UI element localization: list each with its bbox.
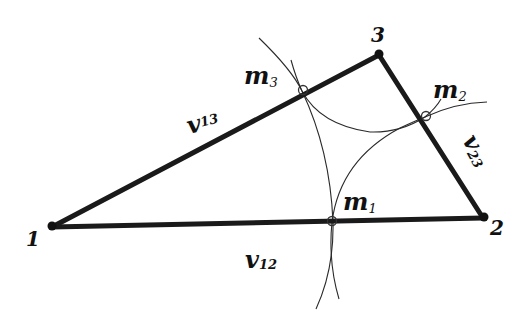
m1-sub: 1 [368, 201, 376, 216]
v23-label: v23 [457, 129, 498, 171]
edge-v13 [52, 55, 379, 227]
m3-main: m [244, 61, 269, 90]
m3-sub: 3 [269, 75, 277, 90]
vertex-2-label: 2 [489, 216, 504, 240]
m2-label: m2 [433, 75, 467, 104]
m2-main: m [433, 75, 458, 104]
vertex-3-label: 3 [371, 23, 385, 47]
v13-label: v13 [183, 104, 221, 140]
m2-sub: 2 [457, 89, 466, 104]
v12-label: v12 [245, 245, 277, 274]
vertex-1-dot [48, 222, 57, 231]
vertex-2-dot [480, 213, 489, 222]
v12-main: v [245, 245, 260, 274]
m1-label: m1 [343, 187, 377, 216]
v13-sub: 13 [199, 111, 220, 130]
vertex-3-dot [375, 50, 384, 59]
triangle-diagram: 1 2 3 m1 m2 m3 v12 v13 v23 [0, 0, 530, 327]
edge-v12 [52, 218, 483, 227]
v12-sub: 12 [259, 257, 277, 272]
m3-label: m3 [244, 61, 278, 90]
m1-main: m [343, 187, 368, 216]
vertex-1-label: 1 [26, 227, 40, 251]
